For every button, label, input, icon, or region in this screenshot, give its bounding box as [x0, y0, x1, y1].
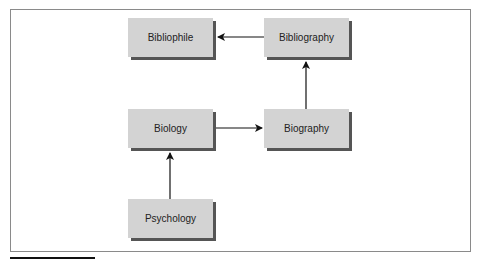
node-biography: Biography: [264, 109, 349, 148]
footnote-rule: [10, 257, 95, 259]
node-psychology: Psychology: [128, 199, 213, 238]
node-label: Psychology: [145, 213, 196, 224]
node-bibliography: Bibliography: [264, 18, 349, 57]
node-label: Bibliophile: [148, 32, 194, 43]
node-label: Bibliography: [279, 32, 334, 43]
node-biology: Biology: [128, 109, 213, 148]
node-label: Biography: [284, 123, 329, 134]
node-label: Biology: [154, 123, 187, 134]
node-bibliophile: Bibliophile: [128, 18, 213, 57]
edges-layer: [0, 0, 480, 263]
